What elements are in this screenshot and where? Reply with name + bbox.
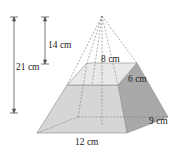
label-removed-height: 14 cm bbox=[48, 40, 72, 50]
frustum-diagram: 21 cm 14 cm 8 cm 6 cm 9 cm 12 cm bbox=[0, 0, 178, 153]
label-base-length: 12 cm bbox=[75, 137, 99, 147]
label-top-width: 6 cm bbox=[128, 74, 147, 84]
label-base-width: 9 cm bbox=[149, 116, 168, 126]
label-top-length: 8 cm bbox=[101, 54, 120, 64]
label-total-height: 21 cm bbox=[16, 62, 40, 72]
